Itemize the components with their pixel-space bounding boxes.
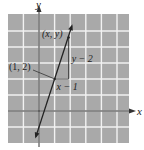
- point-1-2: [53, 78, 55, 80]
- x-axis-label: x: [136, 105, 142, 117]
- point-x-y-label: (x, y): [42, 28, 63, 40]
- x-axis-arrow-icon: [129, 109, 136, 114]
- point-1-2-label: (1, 2): [9, 61, 31, 73]
- point-x-y: [67, 36, 69, 38]
- coordinate-diagram: x y (1, 2) (x, y) y − 2 x − 1: [0, 0, 144, 150]
- horizontal-leg-label: x − 1: [56, 81, 78, 92]
- vertical-leg-label: y − 2: [71, 53, 93, 64]
- y-axis-label: y: [35, 0, 41, 10]
